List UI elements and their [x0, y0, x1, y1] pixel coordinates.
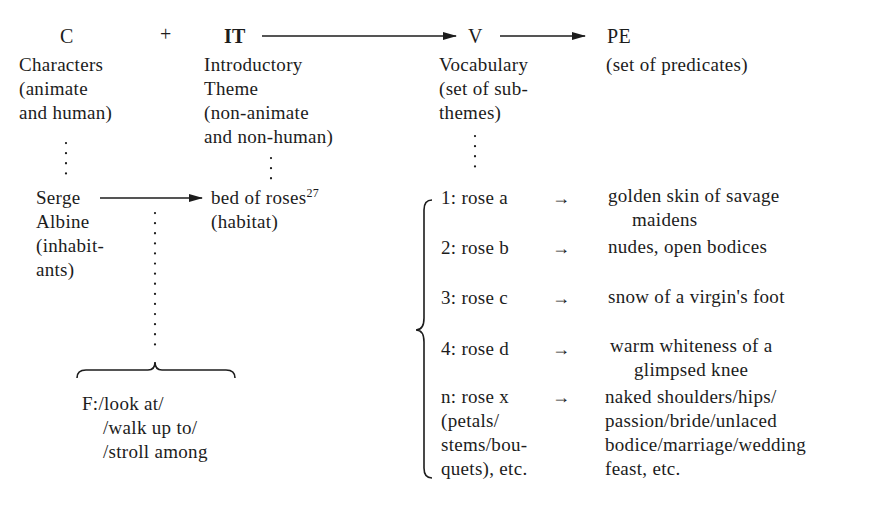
it-desc-1: Introductory	[204, 53, 303, 77]
bed-of-roses: bed of roses27	[211, 186, 319, 210]
vocab-1-label: 1: rose a	[441, 186, 508, 210]
serge-4: ants)	[36, 258, 74, 282]
it-desc-3: (non-animate	[204, 101, 309, 125]
vocab-1-pred-1: golden skin of savage	[608, 184, 779, 208]
plus-sign: +	[160, 22, 172, 46]
v-desc-2: (set of sub-	[439, 77, 528, 101]
vocab-n-extra-2: stems/bou-	[441, 433, 527, 457]
vocab-2-pred-1: nudes, open bodices	[608, 235, 767, 259]
node-v: V	[468, 24, 483, 48]
vocabulary-brace	[416, 200, 432, 478]
vocab-n-label: n: rose x	[441, 385, 509, 409]
arrow-icon: →	[552, 186, 570, 210]
vocab-4-pred-1: warm whiteness of a	[610, 334, 772, 358]
vocab-3-pred-1: snow of a virgin's foot	[608, 285, 785, 309]
function-brace	[77, 362, 235, 378]
vocab-4-label: 4: rose d	[441, 337, 509, 361]
c-desc-2: (animate	[19, 77, 88, 101]
vocab-n-pred-3: bodice/marriage/wedding	[605, 433, 806, 457]
function-3: /stroll among	[103, 440, 208, 464]
vocab-n-extra-3: quets), etc.	[441, 457, 527, 481]
vocab-4-pred-2: glimpsed knee	[634, 358, 748, 382]
vocab-n-pred-4: feast, etc.	[605, 457, 681, 481]
serge-2: Albine	[36, 210, 90, 234]
node-c: C	[60, 24, 74, 48]
it-desc-2: Theme	[204, 77, 258, 101]
node-it: IT	[224, 24, 246, 48]
serge-3: (inhabit-	[36, 234, 104, 258]
vocab-1-pred-2: maidens	[632, 208, 697, 232]
vocab-2-label: 2: rose b	[441, 236, 509, 260]
c-desc-3: and human)	[19, 101, 112, 125]
vocab-n-pred-2: passion/bride/unlaced	[605, 409, 777, 433]
vocab-n-pred-1: naked shoulders/hips/	[605, 385, 776, 409]
arrow-icon: →	[552, 337, 570, 361]
v-desc-3: themes)	[439, 101, 501, 125]
it-desc-4: and non-human)	[204, 125, 333, 149]
footnote-27: 27	[306, 186, 319, 200]
node-pe: PE	[607, 24, 631, 48]
arrow-icon: →	[552, 286, 570, 310]
bed-text: bed of roses	[211, 187, 306, 208]
function-1: F:/look at/	[82, 392, 164, 416]
serge-1: Serge	[36, 186, 80, 210]
arrow-icon: →	[552, 385, 570, 409]
vocab-3-label: 3: rose c	[441, 286, 508, 310]
habitat: (habitat)	[211, 210, 278, 234]
c-desc-1: Characters	[19, 53, 103, 77]
function-2: /walk up to/	[103, 416, 197, 440]
v-desc-1: Vocabulary	[439, 53, 528, 77]
arrow-icon: →	[552, 236, 570, 260]
vocab-n-extra-1: (petals/	[441, 409, 499, 433]
pe-desc: (set of predicates)	[606, 53, 748, 77]
